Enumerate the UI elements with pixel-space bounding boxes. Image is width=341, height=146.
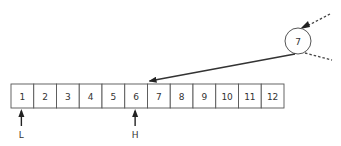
- array-cell-value: 5: [111, 92, 117, 102]
- array-cell-value: 7: [156, 92, 162, 102]
- pointer-arrowhead-icon: [132, 109, 138, 117]
- pointer-label-h: H: [132, 130, 139, 140]
- array-cell-value: 1: [20, 92, 26, 102]
- array-cell-value: 10: [221, 92, 233, 102]
- outgoing-dashed-edge: [305, 53, 332, 60]
- array-cell-value: 6: [133, 92, 139, 102]
- array-cell-value: 2: [42, 92, 48, 102]
- pointer-arrowhead-icon: [18, 109, 24, 117]
- array-cell-value: 8: [179, 92, 185, 102]
- array-cell-value: 9: [202, 92, 208, 102]
- array-cell-value: 12: [267, 92, 278, 102]
- binary-search-diagram: 123456789101112 LH 7: [0, 0, 341, 146]
- array-cell-value: 3: [65, 92, 71, 102]
- incoming-arrowhead-icon: [300, 21, 310, 29]
- node-value: 7: [295, 37, 301, 47]
- node-to-array-arrow: [150, 54, 296, 81]
- array-cell-value: 11: [244, 92, 255, 102]
- array: 123456789101112: [11, 84, 284, 108]
- array-cell-value: 4: [88, 92, 94, 102]
- tree-node: 7: [150, 14, 333, 81]
- pointers: LH: [18, 109, 138, 140]
- pointer-label-l: L: [19, 130, 24, 140]
